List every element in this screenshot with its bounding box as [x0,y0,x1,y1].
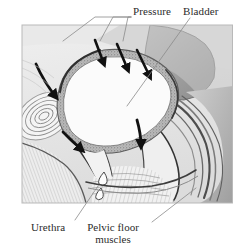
pelvic-anatomy-figure: Pressure Bladder Urethra Pelvic floor mu… [0,0,233,251]
anatomy-illustration [0,0,233,251]
label-pelvic-floor-muscles: Pelvic floor muscles [77,222,149,245]
label-pelvic-floor-line1: Pelvic floor [77,222,149,234]
label-pelvic-floor-line2: muscles [77,234,149,246]
label-bladder: Bladder [183,6,219,18]
label-urethra: Urethra [31,222,65,234]
illustration-panel [7,25,233,203]
label-pressure: Pressure [133,6,171,18]
